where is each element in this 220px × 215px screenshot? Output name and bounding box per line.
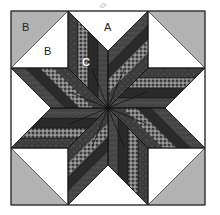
strip-solid-dark: [118, 88, 185, 98]
strip-dark-paisley: [11, 138, 78, 148]
strip-dark-print: [98, 41, 108, 108]
strip-gingham-check: [128, 128, 138, 195]
label-corner-inner-b: B: [44, 45, 51, 57]
strip-dark-paisley: [138, 68, 205, 78]
label-side-a: A: [104, 21, 112, 33]
strip-gingham-check: [78, 21, 88, 88]
quilt-block-diagram: B B A C: [0, 0, 220, 215]
strip-dark-paisley: [138, 138, 148, 205]
strip-dark-print: [41, 108, 108, 118]
strip-dark-print: [108, 98, 175, 108]
strip-gingham-check: [21, 128, 88, 138]
strip-solid-dark: [31, 118, 98, 128]
strip-dark-print: [108, 108, 118, 175]
strip-gingham-check: [128, 78, 195, 88]
label-diamond-c: C: [82, 56, 90, 68]
strip-dark-paisley: [68, 11, 78, 78]
signature-mark: [100, 4, 106, 8]
label-corner-outer-b: B: [22, 21, 29, 33]
strip-solid-dark: [118, 118, 128, 185]
